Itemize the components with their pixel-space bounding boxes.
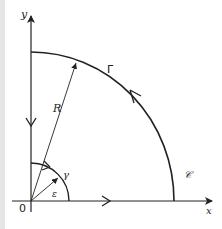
x-axis-label: x [206, 205, 212, 216]
small-radius-label: ε [52, 189, 57, 199]
big-arc-label: Γ [107, 63, 114, 76]
origin-label: 0 [19, 202, 26, 215]
y-axis-label: y [20, 8, 28, 21]
radius-r-line [31, 63, 76, 201]
contour-diagram: y x 0 R Γ γ ε 𝒞 [0, 0, 222, 229]
radius-label: R [52, 102, 61, 115]
big-arc-gamma [31, 52, 174, 201]
contour-label: 𝒞 [184, 169, 194, 180]
small-arc-label: γ [63, 169, 69, 180]
gamma-arrow-icon [130, 90, 141, 103]
